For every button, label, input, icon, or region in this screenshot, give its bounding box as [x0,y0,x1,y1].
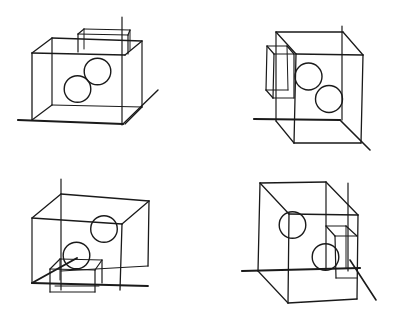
wireframe-edge [340,120,370,150]
wireframe-edge [78,34,128,35]
wireframe-figure [0,0,394,317]
circle-shape [295,63,322,90]
circle-shape [63,242,90,269]
wireframe-edge [335,236,336,278]
wireframe-edge [276,32,296,54]
wireframe-edge [120,224,122,290]
wireframe-edge [266,46,267,90]
wireframe-edge [148,201,149,266]
circle-shape [316,86,343,113]
wireframe-edge [242,268,360,271]
wireframe-edge [260,183,289,214]
wireframe-edge [287,46,288,90]
wireframe-edge [343,32,363,55]
wireframe-edge [260,182,326,183]
wireframe-edge [32,53,125,55]
wireframe-edge [273,54,274,98]
wireframe-edge [258,271,288,303]
wireframe-edge [267,46,274,54]
figure-canvas [0,0,394,317]
panel-top-right [254,26,370,150]
wireframe-edge [350,260,376,300]
circle-shape [64,76,91,103]
wireframe-edge [78,29,84,34]
wireframe-edge [326,226,335,236]
wireframe-edge [32,38,52,53]
wireframe-edge [254,119,340,120]
wireframe-edge [61,194,149,201]
wireframe-edge [125,107,142,124]
panel-bottom-right [242,182,376,303]
wireframe-edge [60,259,102,260]
panel-bottom-left [32,179,149,292]
wireframe-edge [122,201,149,224]
wireframe-edge [258,183,260,271]
panel-top-left [18,17,158,125]
circle-shape [279,212,306,239]
circle-shape [91,216,118,243]
wireframe-edge [32,194,61,218]
wireframe-edge [288,299,357,303]
wireframe-edge [361,55,363,143]
wireframe-edge [296,54,363,55]
wireframe-edge [32,105,52,120]
wireframe-edge [266,90,273,98]
wireframe-edge [357,215,358,299]
wireframe-edge [326,182,358,215]
wireframe-edge [32,218,122,224]
wireframe-edge [52,105,142,107]
wireframe-edge [288,214,289,303]
wireframe-edge [276,121,294,143]
wireframe-edge [18,120,123,124]
wireframe-edge [84,29,130,30]
